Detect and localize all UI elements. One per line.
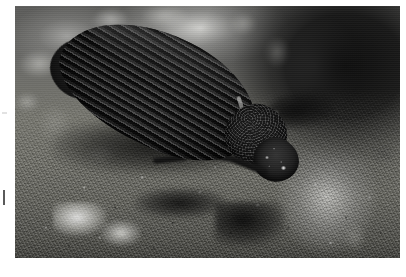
page-canvas (0, 0, 406, 277)
beetle-head-highlight (265, 156, 269, 159)
beetle-eye-glint (281, 166, 286, 170)
margin-tick-upper-icon (2, 112, 7, 114)
beetle-subject (15, 6, 400, 258)
margin-tick-lower-icon (3, 190, 5, 205)
beetle-photograph (15, 6, 400, 258)
